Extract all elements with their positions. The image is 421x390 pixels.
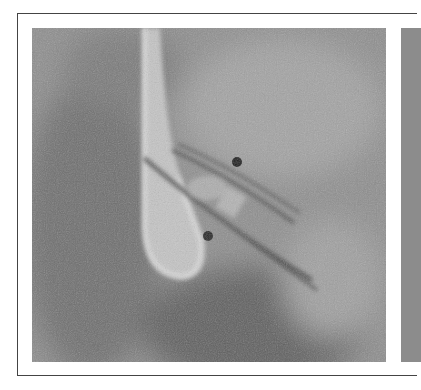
fluoroscopy-image-right [401, 28, 421, 362]
fluoroscopy-graphic [32, 28, 386, 362]
fluoroscopy-image-left [32, 28, 386, 362]
